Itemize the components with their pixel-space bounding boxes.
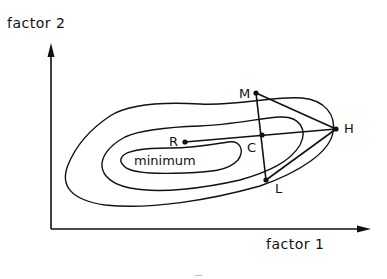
point-L [263, 177, 268, 182]
point-label-M: M [239, 87, 250, 100]
minimum-label: minimum [134, 154, 196, 167]
x-axis-label: factor 1 [266, 237, 324, 251]
contour-middle [102, 117, 303, 190]
point-R [182, 139, 187, 144]
point-label-H: H [344, 122, 354, 135]
contour-lines [65, 98, 333, 207]
scan-artifact [195, 275, 202, 276]
simplex-contour-diagram [0, 0, 387, 279]
point-label-R: R [169, 135, 178, 148]
point-H [333, 126, 338, 131]
y-axis-arrow-icon [48, 43, 55, 57]
point-label-C: C [247, 141, 256, 154]
point-C [259, 132, 264, 137]
y-axis-label: factor 2 [7, 16, 65, 30]
contour-outer [65, 98, 333, 207]
point-label-L: L [275, 182, 282, 195]
line-H-L [266, 129, 336, 180]
x-axis-arrow-icon [357, 226, 371, 233]
point-M [253, 90, 258, 95]
